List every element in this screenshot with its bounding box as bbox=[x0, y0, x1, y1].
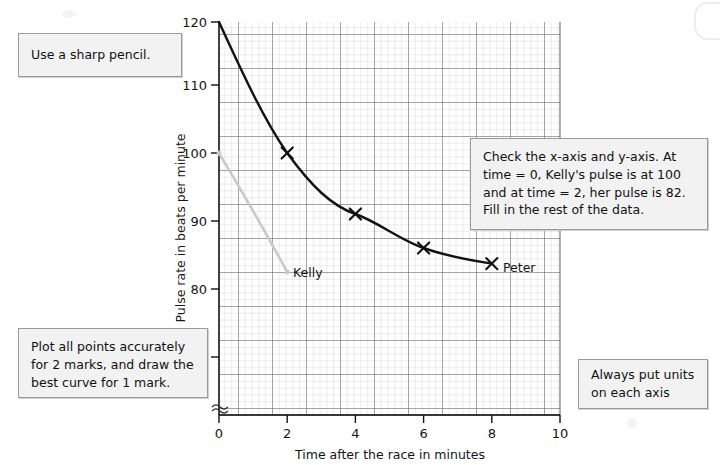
note-text: Use a sharp pencil. bbox=[31, 46, 150, 64]
note-always-put-units: Always put units on each axis bbox=[578, 359, 708, 409]
note-check-axes: Check the x-axis and y-axis. At time = 0… bbox=[470, 138, 708, 230]
note-text: Plot all points accurately for 2 marks, … bbox=[31, 338, 195, 391]
series-label-kelly: Kelly bbox=[293, 265, 323, 280]
x-tick-8: 8 bbox=[488, 426, 496, 441]
x-tick-6: 6 bbox=[419, 426, 427, 441]
note-text: Check the x-axis and y-axis. At time = 0… bbox=[483, 148, 695, 219]
y-tick-90: 90 bbox=[190, 214, 207, 229]
x-axis-tick-labels: 0 2 4 6 8 10 bbox=[215, 426, 568, 441]
x-tick-4: 4 bbox=[351, 426, 359, 441]
y-axis-title: Pulse rate in beats per minute bbox=[173, 133, 188, 322]
x-axis-title: Time after the race in minutes bbox=[294, 447, 485, 462]
x-tick-0: 0 bbox=[215, 426, 223, 441]
x-tick-2: 2 bbox=[283, 426, 291, 441]
series-label-peter: Peter bbox=[503, 260, 536, 275]
note-use-sharp-pencil: Use a sharp pencil. bbox=[18, 33, 182, 77]
y-tick-110: 110 bbox=[182, 78, 207, 93]
worksheet-page: 120 110 100 90 80 70 0 bbox=[0, 0, 724, 465]
y-axis-ticks bbox=[211, 22, 219, 357]
note-text: Always put units on each axis bbox=[591, 366, 695, 402]
note-plot-accurately: Plot all points accurately for 2 marks, … bbox=[18, 328, 208, 398]
x-axis-ticks bbox=[219, 415, 560, 423]
y-tick-120: 120 bbox=[182, 15, 207, 30]
x-tick-10: 10 bbox=[552, 426, 569, 441]
y-tick-80: 80 bbox=[190, 282, 207, 297]
